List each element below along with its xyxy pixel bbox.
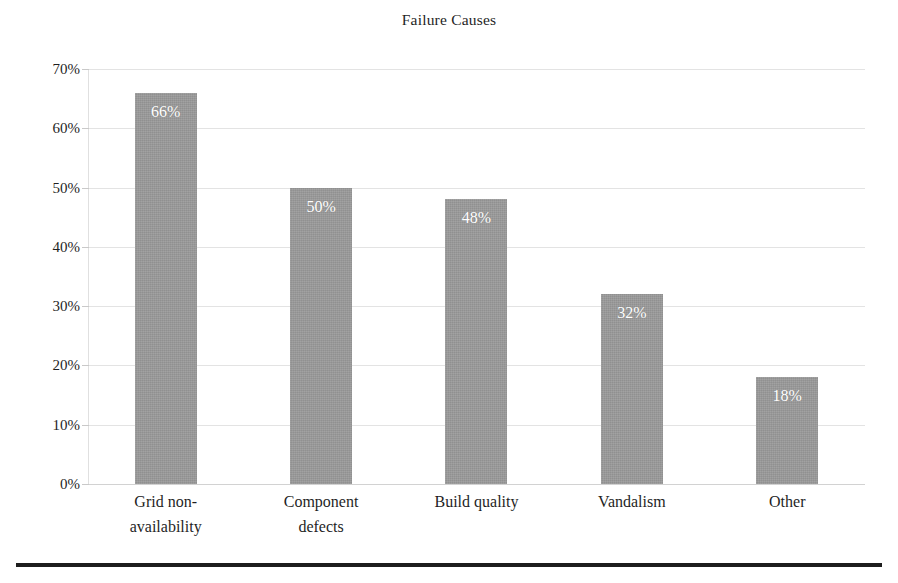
bar-value-label: 48% (445, 209, 507, 227)
y-tick-0 (82, 484, 89, 485)
y-axis-label: 40% (8, 238, 80, 255)
gridline-0 (88, 484, 865, 485)
bar[interactable]: 32% (601, 294, 663, 484)
y-axis-labels: 0%10%20%30%40%50%60%70% (0, 0, 80, 583)
bar-group: 50% (243, 69, 398, 484)
y-axis-label: 30% (8, 298, 80, 315)
y-tick-70 (82, 69, 89, 70)
x-axis-label-line: Grid non- (88, 489, 243, 514)
y-axis-label: 70% (8, 61, 80, 78)
x-axis-label-line: defects (243, 514, 398, 539)
x-axis-labels: Grid non-availabilityComponentdefectsBui… (88, 489, 865, 549)
x-axis-label-line: Other (710, 489, 865, 514)
x-axis-label-line: Component (243, 489, 398, 514)
y-tick-40 (82, 247, 89, 248)
bar[interactable]: 66% (135, 93, 197, 484)
y-axis-label: 10% (8, 416, 80, 433)
bar-group: 18% (710, 69, 865, 484)
x-axis-label-line: Vandalism (554, 489, 709, 514)
x-axis-label: Vandalism (554, 489, 709, 514)
y-axis-label: 20% (8, 357, 80, 374)
bar-value-label: 32% (601, 304, 663, 322)
bar-group: 66% (88, 69, 243, 484)
plot-area: 66%50%48%32%18% (88, 69, 865, 484)
y-tick-20 (82, 365, 89, 366)
x-axis-label: Build quality (399, 489, 554, 514)
y-axis-label: 50% (8, 179, 80, 196)
bar-value-label: 18% (756, 387, 818, 405)
x-axis-label: Componentdefects (243, 489, 398, 539)
bar-chart-figure: Failure Causes 66%50%48%32%18% 0%10%20%3… (0, 0, 898, 583)
x-axis-label: Grid non-availability (88, 489, 243, 539)
bar[interactable]: 50% (290, 188, 352, 484)
bar-value-label: 50% (290, 198, 352, 216)
chart-title: Failure Causes (0, 11, 898, 29)
x-axis-label: Other (710, 489, 865, 514)
y-tick-10 (82, 425, 89, 426)
bar-group: 48% (399, 69, 554, 484)
x-axis-label-line: Build quality (399, 489, 554, 514)
x-axis-label-line: availability (88, 514, 243, 539)
bar-value-label: 66% (135, 103, 197, 121)
y-axis-label: 60% (8, 120, 80, 137)
y-tick-50 (82, 188, 89, 189)
y-axis-label: 0% (8, 476, 80, 493)
y-tick-60 (82, 128, 89, 129)
bar[interactable]: 18% (756, 377, 818, 484)
bottom-divider-rule (16, 563, 882, 567)
bar[interactable]: 48% (445, 199, 507, 484)
bar-group: 32% (554, 69, 709, 484)
y-tick-30 (82, 306, 89, 307)
